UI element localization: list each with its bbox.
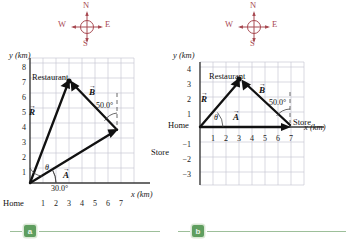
part-badge-row-b: b — [178, 222, 346, 240]
part-badge-row-a: a — [10, 222, 160, 240]
angle-label-30-a: 30.0° — [51, 184, 68, 193]
part-rule-left-b — [178, 231, 190, 232]
x-axis-label-b-text: x (km) — [304, 122, 325, 132]
angle-label-50-a: 50.0° — [96, 101, 113, 110]
x-tick-b-5: 5 — [260, 134, 270, 143]
vector-label-R-a: → R — [29, 107, 35, 117]
x-tick-b-7: 7 — [286, 134, 296, 143]
part-rule-a — [39, 231, 160, 232]
x-tick-a-2: 2 — [51, 199, 61, 208]
point-label-store-a: Store — [151, 147, 169, 157]
x-axis-label-a-text: x (km) — [131, 189, 152, 199]
figure-part-b: N S E W y (km) 4 3 2 1 −1 −2 −3 — [176, 0, 352, 246]
compass-east-label-b: E — [272, 19, 277, 29]
x-tick-b-3: 3 — [234, 134, 244, 143]
vector-label-A-a: → A — [63, 170, 69, 180]
vector-label-R-b: → R — [201, 94, 207, 104]
x-axis-label-b: x (km) — [304, 122, 325, 132]
x-tick-a-3: 3 — [64, 199, 74, 208]
point-label-home-b: Home — [168, 120, 189, 130]
point-label-restaurant-a: Restaurant — [32, 72, 68, 82]
angle-label-theta-b: θ — [214, 113, 218, 122]
x-tick-a-6: 6 — [103, 199, 113, 208]
point-label-home-a: Home — [3, 198, 24, 208]
compass-west-label-b: W — [225, 19, 233, 29]
vector-label-B-b: → B — [259, 85, 265, 95]
part-badge-b: b — [192, 225, 204, 237]
part-rule-left-a — [10, 231, 22, 232]
compass-east-label: E — [105, 19, 110, 29]
compass-south-label-b: S — [250, 38, 255, 48]
x-tick-b-1: 1 — [208, 134, 218, 143]
x-tick-a-4: 4 — [77, 199, 87, 208]
x-tick-a-1: 1 — [38, 199, 48, 208]
point-label-restaurant-b: Restaurant — [209, 71, 245, 81]
x-axis-label-a: x (km) — [131, 189, 152, 199]
compass-north-label: N — [83, 0, 89, 10]
part-badge-a: a — [24, 225, 36, 237]
plot-area-b — [176, 55, 352, 205]
compass-west-label: W — [58, 19, 66, 29]
compass-south-label: S — [83, 38, 88, 48]
part-rule-b — [207, 231, 346, 232]
figure-part-a: N S E W y (km) 8 7 6 5 4 3 2 1 — [0, 0, 176, 246]
x-tick-b-4: 4 — [247, 134, 257, 143]
vector-label-A-b: → A — [233, 112, 239, 122]
x-tick-b-2: 2 — [221, 134, 231, 143]
angle-label-50-b: 50.0° — [269, 98, 286, 107]
plot-area-a — [0, 55, 176, 205]
x-tick-a-5: 5 — [90, 199, 100, 208]
angle-label-theta-a: θ — [45, 163, 49, 172]
x-tick-a-7: 7 — [116, 199, 126, 208]
x-tick-b-6: 6 — [273, 134, 283, 143]
compass-north-label-b: N — [250, 0, 256, 10]
vector-label-B-a: → B — [89, 87, 95, 97]
